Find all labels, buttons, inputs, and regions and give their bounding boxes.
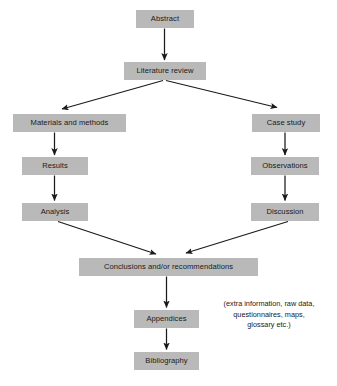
node-appendices: Appendices xyxy=(134,310,199,328)
appendices-annotation: (extra information, raw data, questionna… xyxy=(203,299,335,331)
node-discussion-label: Discussion xyxy=(266,207,303,216)
node-analysis: Analysis xyxy=(22,203,88,221)
node-literature-review-label: Literature review xyxy=(137,66,194,75)
edge-literature-to-materials xyxy=(62,81,163,110)
node-conclusions-label: Conclusions and/or recommendations xyxy=(104,262,233,271)
node-abstract-label: Abstract xyxy=(151,14,179,23)
edge-analysis-to-conclusions xyxy=(58,222,156,255)
node-materials-and-methods: Materials and methods xyxy=(13,114,126,132)
node-literature-review: Literature review xyxy=(124,62,206,80)
node-appendices-label: Appendices xyxy=(146,314,186,323)
node-materials-and-methods-label: Materials and methods xyxy=(31,118,109,127)
node-discussion: Discussion xyxy=(251,203,319,221)
node-observations-label: Observations xyxy=(262,161,307,170)
node-results: Results xyxy=(22,157,88,175)
node-bibliography: Bibliography xyxy=(134,352,199,370)
edge-discussion-to-conclusions xyxy=(186,222,288,254)
node-results-label: Results xyxy=(42,161,68,170)
node-abstract: Abstract xyxy=(136,10,194,28)
node-analysis-label: Analysis xyxy=(41,207,70,216)
node-conclusions: Conclusions and/or recommendations xyxy=(79,258,258,276)
node-bibliography-label: Bibliography xyxy=(145,356,187,365)
edge-literature-to-case-study xyxy=(166,81,277,108)
node-observations: Observations xyxy=(251,157,319,175)
node-case-study: Case study xyxy=(252,114,320,132)
node-case-study-label: Case study xyxy=(267,118,306,127)
flowchart-diagram: Abstract Literature review Materials and… xyxy=(0,0,337,386)
